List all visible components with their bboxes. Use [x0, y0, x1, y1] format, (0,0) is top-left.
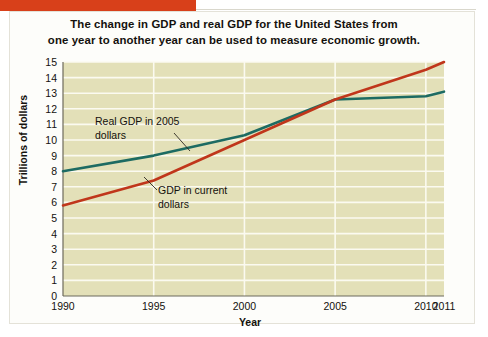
y-axis-title: Trillions of dollars: [17, 75, 29, 205]
plot-area: [0, 0, 488, 337]
annotation-current-gdp-line-2: dollars: [158, 197, 227, 211]
y-tick-label: 6: [31, 197, 57, 207]
x-axis-title: Year: [55, 316, 445, 328]
y-tick-label: 9: [31, 151, 57, 161]
y-tick-label: 4: [31, 229, 57, 239]
y-tick-label: 10: [31, 135, 57, 145]
x-tick-label: 1990: [40, 301, 86, 312]
x-tick-label: 2000: [221, 301, 267, 312]
y-tick-label: 1: [31, 275, 57, 285]
y-tick-label: 11: [31, 119, 57, 129]
gdp-line-chart: Trillions of dollars Year 15141312111098…: [0, 0, 488, 337]
x-tick-label: 2005: [312, 301, 358, 312]
y-tick-label: 14: [31, 73, 57, 83]
y-tick-label: 12: [31, 104, 57, 114]
y-tick-label: 7: [31, 182, 57, 192]
y-tick-label: 5: [31, 213, 57, 223]
annotation-real-gdp-line-2: dollars: [95, 128, 179, 142]
y-tick-label: 2: [31, 260, 57, 270]
y-tick-label: 8: [31, 166, 57, 176]
x-tick-label: 1995: [131, 301, 177, 312]
y-tick-label: 13: [31, 88, 57, 98]
y-tick-label: 3: [31, 244, 57, 254]
annotation-real-gdp: Real GDP in 2005 dollars: [95, 114, 179, 142]
x-tick-label: 2011: [421, 301, 467, 312]
annotation-real-gdp-line-1: Real GDP in 2005: [95, 114, 179, 128]
annotation-current-gdp: GDP in current dollars: [158, 183, 227, 211]
annotation-current-gdp-line-1: GDP in current: [158, 183, 227, 197]
y-tick-label: 15: [31, 57, 57, 67]
